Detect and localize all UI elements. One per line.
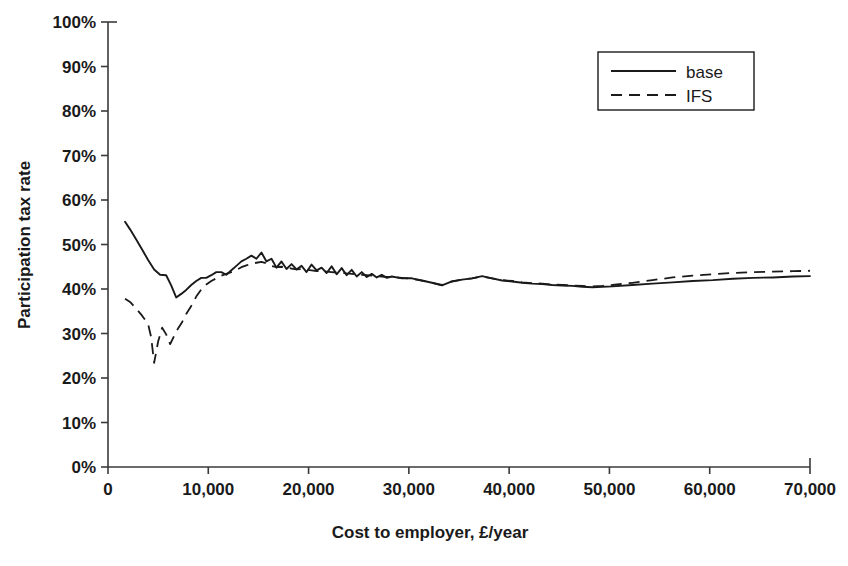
chart-container: 0%10%20%30%40%50%60%70%80%90%100% 010,00… <box>0 0 848 566</box>
x-axis-title: Cost to employer, £/year <box>332 523 529 542</box>
y-axis-title: Participation tax rate <box>15 161 34 329</box>
x-tick-label: 20,000 <box>283 480 335 499</box>
y-tick-label: 50% <box>62 236 96 255</box>
y-tick-label: 90% <box>62 58 96 77</box>
y-axis-ticks <box>101 22 108 467</box>
legend: base IFS <box>598 52 754 110</box>
y-tick-label: 60% <box>62 191 96 210</box>
y-tick-label: 80% <box>62 102 96 121</box>
legend-label-base: base <box>686 63 723 82</box>
y-tick-label: 100% <box>53 13 96 32</box>
series-line-ifs <box>125 262 810 363</box>
y-tick-label: 0% <box>71 458 96 477</box>
legend-label-ifs: IFS <box>686 87 712 106</box>
x-axis-tick-labels: 010,00020,00030,00040,00050,00060,00070,… <box>103 480 836 499</box>
x-tick-label: 30,000 <box>383 480 435 499</box>
x-tick-label: 0 <box>103 480 112 499</box>
x-tick-label: 10,000 <box>182 480 234 499</box>
y-axis-tick-labels: 0%10%20%30%40%50%60%70%80%90%100% <box>53 13 96 477</box>
y-tick-label: 40% <box>62 280 96 299</box>
y-tick-label: 10% <box>62 414 96 433</box>
x-tick-label: 60,000 <box>684 480 736 499</box>
x-tick-label: 50,000 <box>583 480 635 499</box>
y-tick-label: 30% <box>62 325 96 344</box>
y-tick-label: 20% <box>62 369 96 388</box>
x-axis-ticks <box>108 467 810 474</box>
x-tick-label: 70,000 <box>784 480 836 499</box>
x-tick-label: 40,000 <box>483 480 535 499</box>
series-line-base <box>125 222 810 298</box>
participation-tax-rate-chart: 0%10%20%30%40%50%60%70%80%90%100% 010,00… <box>0 0 848 566</box>
y-tick-label: 70% <box>62 147 96 166</box>
legend-box <box>598 52 754 110</box>
